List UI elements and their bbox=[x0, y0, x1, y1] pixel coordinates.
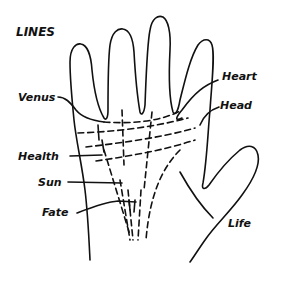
life-label: Life bbox=[228, 218, 251, 229]
health-label: Health bbox=[18, 151, 59, 162]
health-pointer bbox=[70, 155, 102, 156]
dashed-lines bbox=[78, 110, 195, 240]
life-line bbox=[180, 172, 213, 218]
heart-label: Heart bbox=[222, 71, 257, 82]
hand-outline-drawing bbox=[0, 0, 281, 284]
fate-label: Fate bbox=[42, 207, 68, 218]
venus-label: Venus bbox=[18, 92, 55, 103]
palm-lines-diagram: LINES Venus Heart Head Health Sun Fate L… bbox=[0, 0, 281, 284]
title-label: LINES bbox=[16, 26, 55, 38]
sun-label: Sun bbox=[38, 177, 62, 188]
head-label: Head bbox=[220, 100, 252, 111]
